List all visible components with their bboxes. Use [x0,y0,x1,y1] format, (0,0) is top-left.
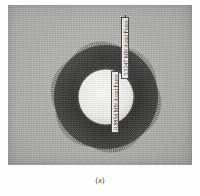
inner-axial-force-label: 0.8854 MN Axial Force [111,71,119,133]
outer-axial-force-label: 3.5247 MN Axial Force [121,17,129,79]
plot-panel: 0.8854 MN Axial Force 3.5247 MN Axial Fo… [8,5,192,165]
figure-root: 0.8854 MN Axial Force 3.5247 MN Axial Fo… [0,0,200,196]
radial-vector-rosette [50,41,162,153]
figure-caption: (a) [0,176,200,185]
